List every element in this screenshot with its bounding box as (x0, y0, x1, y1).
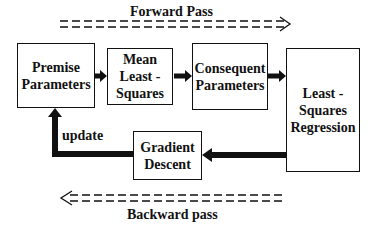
gradient-line-1: Gradient (140, 139, 194, 156)
least-squares-regression-box: Least - Squares Regression (286, 48, 360, 172)
arrow-mean-to-consequent (174, 70, 192, 82)
lsr-line-2: Squares (290, 102, 355, 119)
premise-line-2: Parameters (21, 76, 90, 93)
update-label: update (62, 128, 103, 144)
gradient-line-2: Descent (140, 156, 194, 173)
consequent-parameters-box: Consequent Parameters (192, 43, 268, 110)
arrow-lsr-to-gradient (202, 148, 286, 162)
mean-least-squares-box: Mean Least - Squares (107, 48, 173, 105)
premise-parameters-box: Premise Parameters (17, 43, 95, 108)
consequent-line-2: Parameters (195, 77, 266, 94)
mean-line-2: Least - (116, 68, 164, 85)
mean-line-3: Squares (116, 85, 164, 102)
mean-line-1: Mean (116, 51, 164, 68)
forward-pass-label: Forward Pass (130, 4, 213, 20)
backward-pass-arrow (61, 191, 286, 205)
premise-line-1: Premise (21, 59, 90, 76)
consequent-line-1: Consequent (195, 60, 266, 77)
lsr-line-3: Regression (290, 119, 355, 136)
backward-pass-label: Backward pass (127, 207, 218, 223)
gradient-descent-box: Gradient Descent (133, 131, 202, 180)
arrow-premise-to-mean (94, 70, 107, 82)
arrow-consequent-to-lsr (268, 70, 286, 82)
lsr-line-1: Least - (290, 85, 355, 102)
